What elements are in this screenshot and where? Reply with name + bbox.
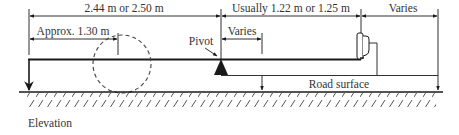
road-surface	[19, 92, 443, 107]
pivot-callout: Pivot	[189, 35, 217, 56]
dimension-approx: Approx. 1.30 m	[30, 25, 118, 55]
dimension-varies-right: Varies	[362, 2, 438, 90]
road-surface-label: Road surface	[309, 78, 369, 90]
swing-path-circle	[93, 35, 151, 93]
usually-label: Usually 1.22 m or 1.25 m	[232, 2, 350, 15]
elevation-diagram: 2.44 m or 2.50 m Usually 1.22 m or 1.25 …	[0, 0, 459, 135]
pivot-label: Pivot	[189, 35, 214, 47]
varies-pivot-label: Varies	[228, 25, 257, 37]
approx-label: Approx. 1.30 m	[37, 25, 110, 38]
overall-left-label: 2.44 m or 2.50 m	[84, 2, 163, 14]
counterweight	[357, 33, 377, 75]
elevation-caption: Elevation	[28, 117, 72, 129]
dimension-varies-pivot: Varies	[222, 25, 262, 54]
varies-right-label: Varies	[389, 2, 418, 14]
pivot-triangle	[214, 59, 228, 75]
